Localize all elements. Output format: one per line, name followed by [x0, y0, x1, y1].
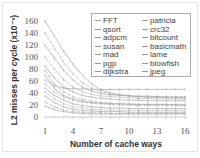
y-axis-title: L2 misses per cycle (x10⁻³) — [9, 15, 19, 126]
legend-swatch — [95, 46, 101, 47]
legend-label: jpeg — [150, 67, 165, 76]
x-tick-label: 1 — [43, 126, 48, 136]
y-tick-label: 40 — [29, 88, 39, 98]
x-tick-label: 4 — [71, 126, 76, 136]
y-axis-ticks: 020406080100120140160 — [25, 16, 39, 122]
x-tick-label: 10 — [125, 126, 135, 136]
legend-swatch — [142, 20, 148, 21]
y-tick-label: 60 — [29, 76, 39, 86]
legend-swatch — [142, 29, 148, 30]
y-tick-label: 20 — [29, 100, 39, 110]
y-tick-label: 120 — [25, 40, 39, 50]
x-axis-title: Number of cache ways — [70, 139, 162, 149]
y-tick-label: 140 — [25, 28, 39, 38]
legend-swatch — [142, 54, 148, 55]
legend-item-jpeg: jpeg — [142, 68, 165, 76]
legend-swatch — [142, 71, 148, 72]
legend-label: dijkstra — [103, 67, 128, 76]
legend-swatch — [95, 71, 101, 72]
y-tick-label: 100 — [25, 52, 39, 62]
y-tick-label: 0 — [34, 112, 39, 122]
legend-swatch — [142, 37, 148, 38]
y-tick-label: 80 — [29, 64, 39, 74]
legend-swatch — [95, 37, 101, 38]
x-tick-label: 7 — [99, 126, 104, 136]
legend-item-dijkstra: dijkstra — [95, 68, 128, 76]
legend-swatch — [95, 63, 101, 64]
legend-swatch — [95, 29, 101, 30]
legend-swatch — [95, 54, 101, 55]
x-tick-label: 13 — [153, 126, 163, 136]
legend-swatch — [95, 20, 101, 21]
legend: FFTqsortadpcmsusanmadpgpdijkstra patrici… — [91, 13, 191, 77]
legend-swatch — [142, 46, 148, 47]
y-tick-label: 160 — [25, 16, 39, 26]
x-tick-label: 16 — [181, 126, 191, 136]
legend-swatch — [142, 63, 148, 64]
x-axis-ticks: 147101316 — [43, 117, 190, 136]
